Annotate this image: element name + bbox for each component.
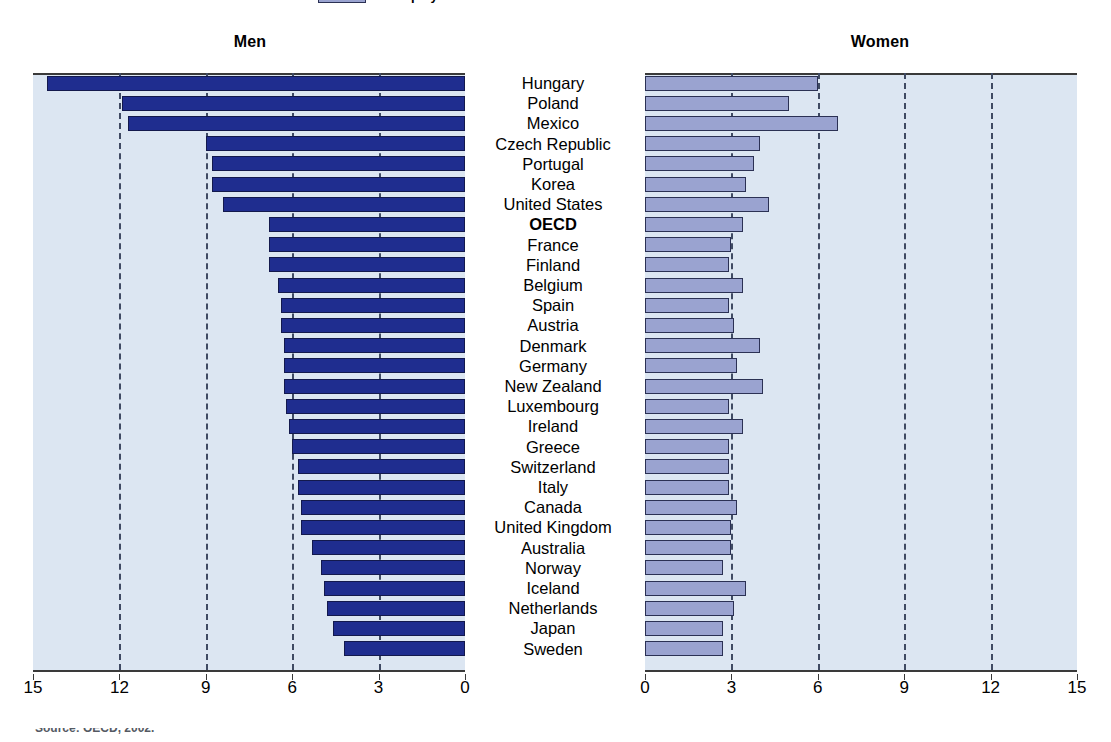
bar-row-men: [33, 396, 465, 416]
bar-women-mexico: [645, 116, 838, 131]
bar-women-norway: [645, 560, 723, 575]
category-label-spain: Spain: [465, 295, 641, 315]
bar-row-women: [645, 194, 1077, 214]
bar-row-men: [33, 578, 465, 598]
x-axis-women: [645, 670, 1077, 672]
bar-men-luxembourg: [286, 399, 465, 414]
ticklabel-men-15: 15: [11, 678, 55, 698]
bar-women-spain: [645, 298, 729, 313]
category-label-austria: Austria: [465, 315, 641, 335]
bar-row-men: [33, 235, 465, 255]
bar-women-germany: [645, 358, 737, 373]
category-label-ireland: Ireland: [465, 416, 641, 436]
category-label-sweden: Sweden: [465, 639, 641, 659]
bar-row-women: [645, 618, 1077, 638]
bar-row-women: [645, 578, 1077, 598]
bar-women-portugal: [645, 156, 754, 171]
bar-men-denmark: [284, 338, 465, 353]
bar-row-women: [645, 73, 1077, 93]
bar-men-oecd: [269, 217, 465, 232]
bar-row-men: [33, 618, 465, 638]
bar-men-united-states: [223, 197, 465, 212]
bar-women-belgium: [645, 278, 743, 293]
ticklabel-women-0: 0: [623, 678, 667, 698]
bar-row-women: [645, 154, 1077, 174]
bar-men-austria: [281, 318, 465, 333]
bar-women-canada: [645, 500, 737, 515]
bar-women-new-zealand: [645, 379, 763, 394]
bar-row-men: [33, 214, 465, 234]
bar-row-men: [33, 538, 465, 558]
bar-row-women: [645, 457, 1077, 477]
ticklabel-women-6: 6: [796, 678, 840, 698]
bar-men-italy: [298, 480, 465, 495]
bar-row-women: [645, 275, 1077, 295]
bar-men-japan: [333, 621, 465, 636]
bar-women-denmark: [645, 338, 760, 353]
bar-men-switzerland: [298, 459, 465, 474]
bar-women-hungary: [645, 76, 818, 91]
category-label-czech-republic: Czech Republic: [465, 134, 641, 154]
bar-row-women: [645, 538, 1077, 558]
bar-men-mexico: [128, 116, 465, 131]
bar-women-ireland: [645, 419, 743, 434]
category-label-new-zealand: New Zealand: [465, 376, 641, 396]
bar-men-belgium: [278, 278, 465, 293]
bar-men-united-kingdom: [301, 520, 465, 535]
bar-row-men: [33, 497, 465, 517]
x-axis-men: [33, 670, 465, 672]
bar-row-women: [645, 517, 1077, 537]
category-label-oecd: OECD: [465, 214, 641, 234]
bar-row-women: [645, 598, 1077, 618]
bar-row-women: [645, 558, 1077, 578]
category-label-poland: Poland: [465, 93, 641, 113]
category-label-japan: Japan: [465, 618, 641, 638]
population-pyramid-chart: 1512963003691215 HungaryPolandMexicoCzec…: [0, 0, 1111, 742]
bar-row-men: [33, 113, 465, 133]
bar-row-men: [33, 376, 465, 396]
bar-row-women: [645, 113, 1077, 133]
bar-row-men: [33, 558, 465, 578]
bar-row-men: [33, 295, 465, 315]
bar-row-women: [645, 295, 1077, 315]
bar-men-germany: [284, 358, 465, 373]
bar-women-czech-republic: [645, 136, 760, 151]
bar-row-women: [645, 437, 1077, 457]
ticklabel-men-3: 3: [357, 678, 401, 698]
bar-row-women: [645, 497, 1077, 517]
bar-row-women: [645, 134, 1077, 154]
bar-men-norway: [321, 560, 465, 575]
category-label-united-states: United States: [465, 194, 641, 214]
ticklabel-women-15: 15: [1055, 678, 1099, 698]
source-note: Source: OECD, 2002.: [35, 728, 154, 735]
bar-women-iceland: [645, 581, 746, 596]
bar-row-men: [33, 356, 465, 376]
ticklabel-women-3: 3: [709, 678, 753, 698]
bar-women-australia: [645, 540, 731, 555]
bar-row-women: [645, 315, 1077, 335]
bar-men-poland: [122, 96, 465, 111]
bar-row-women: [645, 336, 1077, 356]
category-label-iceland: Iceland: [465, 578, 641, 598]
bar-row-women: [645, 235, 1077, 255]
category-label-finland: Finland: [465, 255, 641, 275]
bar-men-sweden: [344, 641, 465, 656]
bar-row-men: [33, 73, 465, 93]
bar-row-women: [645, 639, 1077, 659]
bar-men-portugal: [212, 156, 465, 171]
ticklabel-men-0: 0: [443, 678, 487, 698]
category-label-united-kingdom: United Kingdom: [465, 517, 641, 537]
bar-row-women: [645, 93, 1077, 113]
bar-row-men: [33, 174, 465, 194]
bar-row-women: [645, 214, 1077, 234]
bar-row-women: [645, 376, 1077, 396]
category-label-greece: Greece: [465, 437, 641, 457]
bar-women-switzerland: [645, 459, 729, 474]
bar-men-greece: [292, 439, 465, 454]
bar-women-oecd: [645, 217, 743, 232]
bar-row-men: [33, 93, 465, 113]
bar-row-men: [33, 477, 465, 497]
ticklabel-men-6: 6: [270, 678, 314, 698]
category-label-australia: Australia: [465, 538, 641, 558]
ticklabel-men-9: 9: [184, 678, 228, 698]
